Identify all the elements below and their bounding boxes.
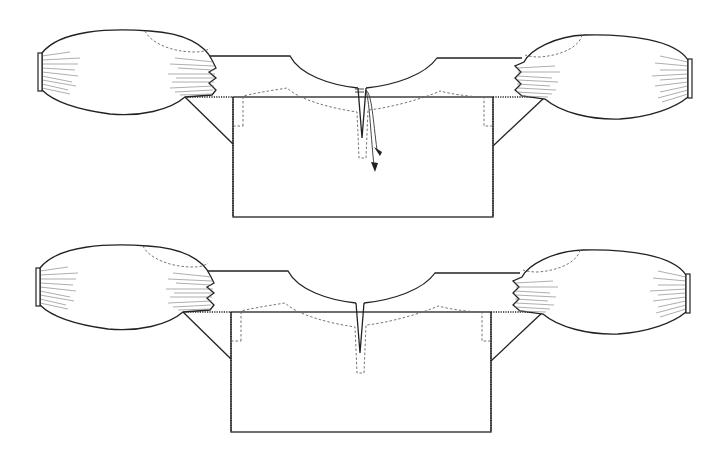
blouse-top-variant <box>38 30 692 217</box>
blouse-bottom-variant <box>36 245 690 432</box>
blouse-pattern-diagram <box>0 0 728 467</box>
